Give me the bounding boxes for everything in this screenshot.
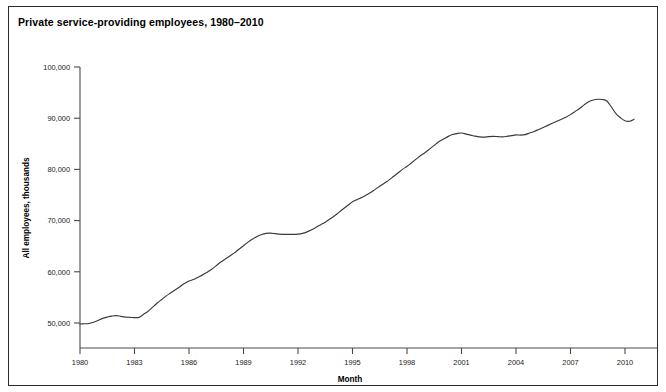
x-tick-label: 1995 <box>344 358 360 367</box>
x-axis-title: Month <box>338 375 363 384</box>
x-tick-label: 2004 <box>508 358 524 367</box>
x-axis-ticks: 1980198319861989199219951998200120042007… <box>72 348 633 367</box>
y-axis-title: All employees, thousands <box>22 157 31 258</box>
y-tick-label: 100,000 <box>43 63 70 72</box>
x-tick-label: 1980 <box>72 358 88 367</box>
x-tick-label: 2007 <box>562 358 578 367</box>
data-series-line <box>80 99 634 324</box>
x-tick-label: 1983 <box>126 358 142 367</box>
x-tick-label: 2001 <box>453 358 469 367</box>
y-tick-label: 60,000 <box>47 268 70 277</box>
x-tick-label: 1989 <box>235 358 251 367</box>
x-tick-label: 1998 <box>399 358 415 367</box>
chart-figure: Private service-providing employees, 198… <box>0 0 666 392</box>
x-tick-label: 1986 <box>181 358 197 367</box>
x-tick-label: 2010 <box>617 358 633 367</box>
y-tick-label: 50,000 <box>47 319 70 328</box>
y-tick-label: 80,000 <box>47 165 70 174</box>
y-tick-label: 70,000 <box>47 216 70 225</box>
x-tick-label: 1992 <box>290 358 306 367</box>
y-tick-label: 90,000 <box>47 114 70 123</box>
y-axis-ticks: 50,00060,00070,00080,00090,000100,000 <box>43 63 80 328</box>
chart-plot-area: 50,00060,00070,00080,00090,000100,000 19… <box>0 0 666 392</box>
